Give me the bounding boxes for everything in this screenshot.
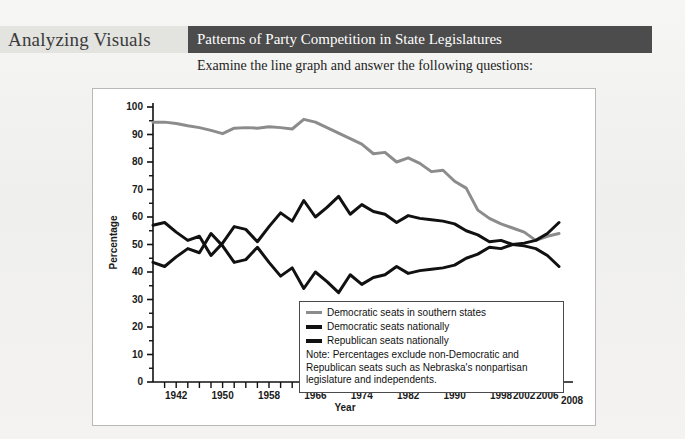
series-line-2	[153, 223, 559, 293]
legend-note-line-2: Republican seats such as Nebraska's nonp…	[306, 362, 557, 375]
series-line-1	[153, 196, 559, 266]
legend-item-southern-democrats: Democratic seats in southern states	[306, 306, 557, 319]
legend-label-republicans-national: Republican seats nationally	[327, 335, 449, 347]
y-tick-label: 30	[117, 294, 143, 305]
x-tick-label: 1942	[159, 390, 193, 401]
y-tick-label: 70	[117, 184, 143, 195]
y-tick-label: 50	[117, 239, 143, 250]
y-tick-label: 40	[117, 266, 143, 277]
y-tick-label: 80	[117, 156, 143, 167]
chart-legend: Democratic seats in southern states Demo…	[299, 301, 564, 393]
legend-swatch-republicans-national	[306, 339, 322, 343]
y-tick-label: 90	[117, 129, 143, 140]
legend-note-line-1: Note: Percentages exclude non-Democratic…	[306, 349, 557, 362]
legend-note-line-3: legislature and independents.	[306, 374, 557, 387]
legend-label-southern-democrats: Democratic seats in southern states	[327, 307, 486, 319]
instruction-text: Examine the line graph and answer the fo…	[197, 58, 533, 74]
feature-label-band: Analyzing Visuals	[0, 26, 188, 53]
y-tick-label: 100	[117, 101, 143, 112]
legend-label-democrats-national: Democratic seats nationally	[327, 321, 449, 333]
title-band: Patterns of Party Competition in State L…	[188, 26, 652, 53]
chart-container: Percentage Year 2008 0102030405060708090…	[92, 88, 596, 426]
header-band: Analyzing Visuals Patterns of Party Comp…	[0, 26, 685, 53]
page-title: Patterns of Party Competition in State L…	[188, 31, 502, 48]
legend-item-republicans-national: Republican seats nationally	[306, 334, 557, 347]
x-tick-label: 1958	[252, 390, 286, 401]
x-axis-title: Year	[93, 402, 597, 413]
legend-note: Note: Percentages exclude non-Democratic…	[306, 349, 557, 387]
y-tick-label: 20	[117, 321, 143, 332]
x-tick-label: 1950	[206, 390, 240, 401]
legend-swatch-southern-democrats	[306, 311, 322, 314]
y-tick-label: 0	[117, 376, 143, 387]
legend-swatch-democrats-national	[306, 325, 322, 329]
legend-item-democrats-national: Democratic seats nationally	[306, 320, 557, 333]
series-line-0	[153, 119, 559, 240]
y-tick-label: 10	[117, 349, 143, 360]
feature-label: Analyzing Visuals	[0, 29, 151, 51]
y-tick-label: 60	[117, 211, 143, 222]
